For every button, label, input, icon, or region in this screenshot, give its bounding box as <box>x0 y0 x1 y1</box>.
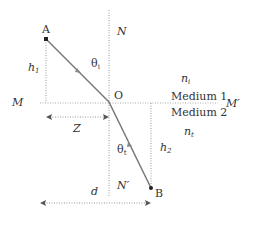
point-a-marker <box>44 37 48 41</box>
z-arrow-left-icon <box>46 114 52 120</box>
n1-label: ni <box>181 73 190 86</box>
point-a-label: A <box>42 24 50 35</box>
z-label: Z <box>73 123 81 134</box>
interface-left-label: M <box>12 97 23 108</box>
d-arrow-left-icon <box>40 200 46 206</box>
point-o-label: O <box>114 90 123 101</box>
h2-label: h2 <box>160 142 172 155</box>
normal-bottom-label: N′ <box>117 180 129 191</box>
n2-label: nt <box>184 126 194 139</box>
transmitted-angle-label: θt <box>117 144 126 157</box>
normal-top-label: N <box>117 26 127 37</box>
point-b-marker <box>149 186 153 190</box>
h1-label: h1 <box>28 62 40 75</box>
incident-angle-label: θi <box>91 58 100 71</box>
d-arrow-right-icon <box>145 200 151 206</box>
point-b-label: B <box>155 188 163 199</box>
z-arrow-right-icon <box>103 114 109 120</box>
medium1-label: Medium 1 <box>171 91 227 102</box>
d-label: d <box>91 186 98 197</box>
medium2-label: Medium 2 <box>171 107 227 118</box>
interface-right-label: M′ <box>226 98 240 109</box>
